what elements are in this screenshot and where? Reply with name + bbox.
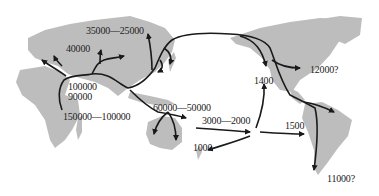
label-12000: 12000? — [310, 65, 338, 75]
south-america-land — [302, 102, 352, 175]
label-40000: 40000 — [66, 44, 90, 54]
label-35000-25000: 35000—25000 — [86, 26, 144, 36]
route-hawaii — [256, 84, 264, 128]
route-easter — [260, 132, 304, 134]
africa-land — [16, 66, 80, 148]
label-1000: 1000 — [193, 143, 212, 153]
route-polynesia — [196, 128, 250, 132]
label-1400: 1400 — [254, 76, 273, 86]
label-60000-50000: 60000—50000 — [153, 103, 211, 113]
label-90000: 90000 — [68, 92, 92, 102]
label-11000: 11000? — [327, 174, 355, 184]
label-1500: 1500 — [285, 121, 304, 131]
label-150000-100000: 150000—100000 — [63, 112, 130, 122]
route-new-zealand — [208, 136, 250, 150]
migration-map — [0, 0, 379, 196]
label-3000-2000: 3000—2000 — [202, 116, 250, 126]
australia-land — [146, 116, 182, 150]
